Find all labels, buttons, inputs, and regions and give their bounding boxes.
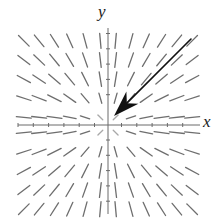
slope-segment — [157, 184, 167, 196]
slope-segment — [115, 183, 117, 198]
slope-segment — [128, 53, 133, 67]
slope-segment — [171, 75, 183, 83]
slope-segment — [185, 96, 199, 101]
slope-segment — [115, 53, 117, 68]
slope-segment — [99, 147, 102, 157]
slope-segment — [16, 132, 31, 133]
slope-segment — [50, 35, 58, 48]
slope-segment — [156, 166, 167, 176]
slope-segment — [67, 34, 73, 48]
slope-segment — [185, 132, 200, 133]
slope-segment — [142, 54, 150, 67]
slope-segment — [49, 166, 60, 176]
slope-segment — [66, 54, 74, 67]
slope-segment — [169, 117, 184, 119]
slope-segment — [141, 165, 151, 177]
slope-segment — [63, 116, 76, 119]
slope-segment — [140, 131, 153, 134]
slope-segment — [48, 95, 61, 102]
slope-segment — [33, 75, 45, 83]
slope-segment — [32, 96, 46, 101]
slope-segment — [34, 185, 45, 195]
slope-segment — [142, 184, 150, 197]
slope-segment — [154, 116, 169, 118]
slope-segment — [80, 131, 89, 134]
slope-segment — [114, 147, 117, 157]
slope-segment — [187, 204, 198, 215]
slope-segment — [129, 202, 133, 216]
slope-segment — [127, 147, 135, 156]
y-axis-label: y — [98, 3, 106, 20]
slope-segment — [99, 53, 101, 68]
slope-segment — [114, 93, 117, 103]
slope-segment — [64, 148, 76, 156]
slope-segment — [16, 117, 31, 118]
slope-segment — [99, 93, 102, 103]
direction-field-plot — [0, 0, 223, 221]
slope-segment — [170, 96, 184, 101]
slope-segment — [128, 164, 135, 177]
slope-segment — [100, 202, 101, 217]
slope-segment — [65, 73, 75, 85]
slope-segment — [83, 53, 88, 67]
slope-segment — [81, 94, 89, 103]
slope-segment — [155, 95, 168, 102]
slope-segment — [126, 131, 135, 134]
direction-field-figure: y x — [0, 0, 223, 221]
slope-segment — [98, 115, 103, 120]
slope-segment — [47, 132, 62, 134]
slope-segment — [81, 147, 89, 156]
slope-segment — [172, 35, 182, 47]
slope-segment — [140, 148, 152, 156]
slope-segment — [32, 149, 46, 154]
slope-segment — [185, 117, 200, 118]
slope-segment — [171, 185, 182, 195]
slope-segment — [17, 76, 30, 83]
slope-segment — [100, 33, 101, 48]
slope-segment — [82, 72, 89, 85]
slope-segment — [19, 36, 30, 47]
slope-segment — [66, 184, 74, 197]
slope-segment — [158, 203, 166, 216]
slope-segment — [67, 202, 73, 216]
slope-segment — [115, 202, 116, 217]
slope-segment — [50, 203, 58, 216]
slope-segment — [128, 183, 133, 197]
slope-segment — [170, 149, 184, 154]
slope-segment — [114, 164, 116, 178]
slope-segment — [185, 150, 199, 155]
slope-segment — [19, 204, 30, 215]
slope-segment — [99, 72, 101, 86]
slope-segment — [80, 116, 89, 119]
slope-segment — [49, 74, 60, 84]
slope-segment — [65, 165, 75, 177]
slope-segment — [143, 34, 149, 48]
slope-segment — [186, 167, 199, 174]
slope-segment — [126, 116, 135, 119]
slope-segment — [17, 150, 31, 155]
slope-segment — [64, 94, 76, 102]
slope-segment — [17, 96, 31, 101]
slope-segment — [140, 94, 152, 102]
slope-segment — [114, 72, 116, 86]
slope-segment — [48, 148, 61, 155]
slope-segment — [169, 132, 184, 134]
slope-segment — [33, 167, 45, 175]
slope-segment — [47, 116, 62, 118]
slope-segment — [129, 34, 133, 48]
slope-segment — [34, 55, 45, 65]
slope-segment — [113, 130, 118, 135]
slope-segment — [83, 183, 88, 197]
slope-segment — [172, 203, 182, 215]
slope-segment — [34, 203, 44, 215]
slope-segment — [63, 131, 76, 134]
slope-segment — [98, 130, 103, 135]
x-axis-label: x — [203, 113, 211, 130]
slope-segment — [115, 33, 116, 48]
slope-segment — [99, 183, 101, 198]
slope-segment — [158, 35, 166, 48]
slope-segment — [83, 34, 87, 48]
slope-segment — [154, 132, 169, 134]
slope-segment — [140, 116, 153, 119]
slope-segment — [32, 117, 47, 119]
